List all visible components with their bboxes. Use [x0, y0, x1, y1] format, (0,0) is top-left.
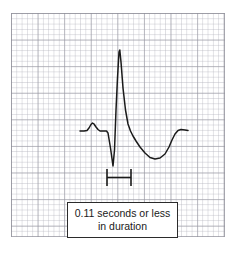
ecg-qrs-duration-diagram: 0.11 seconds or less in duration: [0, 0, 243, 261]
duration-caption-box: 0.11 seconds or less in duration: [67, 202, 178, 238]
duration-caption-text: 0.11 seconds or less in duration: [68, 207, 177, 233]
